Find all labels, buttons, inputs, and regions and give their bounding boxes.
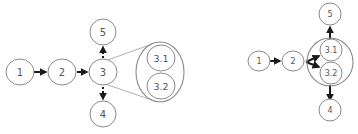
node-label: 2 [290, 57, 295, 66]
expansion-line-top [108, 44, 152, 60]
node-3-group: 3.1 3.2 [307, 38, 353, 86]
node-label: 3.1 [153, 53, 168, 64]
node-label: 1 [256, 57, 261, 66]
expansion-line-bottom [108, 85, 152, 100]
node-3-2: 3.2 [320, 62, 342, 84]
right-diagram: 1 2 5 4 3.1 3.2 [248, 3, 353, 121]
node-3-2: 3.2 [147, 73, 175, 99]
node-label: 3.1 [325, 46, 338, 55]
node-label: 1 [17, 67, 23, 78]
node-label: 3 [100, 67, 106, 78]
diagram-canvas: 1 2 3 5 4 3.1 3.2 [0, 0, 358, 134]
node-1: 1 [6, 59, 34, 85]
node-3-1: 3.1 [147, 45, 175, 71]
node-label: 5 [100, 27, 106, 38]
node-3: 3 [89, 59, 117, 85]
node-4: 4 [319, 99, 341, 121]
node-label: 3.2 [325, 69, 338, 78]
node-3-1: 3.1 [320, 39, 342, 61]
node-1: 1 [248, 51, 270, 71]
node-5: 5 [319, 3, 341, 25]
edge-2-to-3-2 [306, 62, 319, 67]
node-5: 5 [90, 19, 116, 45]
node-label: 2 [59, 67, 65, 78]
node-label: 4 [100, 109, 106, 120]
node-label: 4 [327, 106, 332, 115]
node-2: 2 [282, 51, 304, 71]
node-2: 2 [48, 59, 76, 85]
node-3-expansion: 3.1 3.2 [136, 42, 184, 102]
left-diagram: 1 2 3 5 4 3.1 3.2 [6, 19, 184, 127]
node-label: 5 [327, 10, 332, 19]
node-label: 3.2 [153, 81, 168, 92]
node-4: 4 [90, 101, 116, 127]
